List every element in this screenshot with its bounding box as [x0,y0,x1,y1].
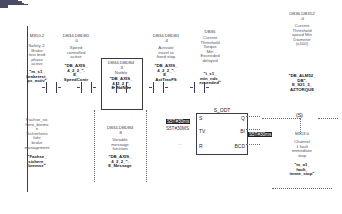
contact-4-comment: Activate travel to fixed stop [146,46,185,60]
contact-1-lead-left [42,87,45,88]
contact-3-below-comment: Variable message function [99,138,140,152]
contact-2-bar-right [91,82,92,93]
lad-network-canvas[interactable]: M810.2 Safety 2: Brake test feed phase a… [0,0,342,214]
contact-1[interactable] [45,82,58,93]
contact-3-below-address: DB34.DBDB4 .8 [99,126,140,135]
timer-r-input-wire [0,7,8,8]
timer-block-title: S_ODT [197,107,247,113]
contact-5[interactable] [193,82,206,93]
contact-5-comment: Current Threshold Torque Min Exceeded de… [188,36,231,63]
contact-5-lead-left [190,87,193,88]
contact-1-below-symbol: "Fachse_ sichere_ bremse" [17,155,56,169]
coil-rung-wire [262,118,300,119]
contact-3-selected[interactable] [115,82,128,93]
timer-pin-s[interactable]: S [199,115,202,121]
timer-tv-operand-highlighted[interactable]: S5T#30ms [166,119,190,124]
timer-pin-r[interactable]: R [199,143,203,149]
contact-1-address: M810.2 [20,34,53,39]
contact-5-lead-right [206,87,209,88]
contact-5-address: DB36 [188,30,231,35]
contact-3-below-symbol: "DB_AXIS_ 4_2_2_". E_Message [99,155,140,169]
contact-2-lead-left [77,87,80,88]
contact-5-bar-left [194,82,195,93]
reset-operand-comment: Channel 1 fault immediate stop [278,140,325,158]
contact-2[interactable] [80,82,93,93]
contact-3-bar-right [126,82,127,93]
branch-wire-right [146,110,147,182]
contact-2-address: DB34.DBDB1 .0 [57,34,94,43]
timer-q-output-wire [246,116,260,117]
power-rail-left [27,26,28,110]
timer-r-operand: ... [178,141,182,146]
timer-pin-bi[interactable]: BI [240,128,245,134]
contact-4-lead-left [149,87,152,88]
contact-3-address: DB34.DBDB4 .3 [101,61,140,70]
timer-pin-bcd[interactable]: BCD [234,143,245,149]
contact-2-symbol: "DB_AXIS_ 4_2_2_". E_ SpeedContr [56,64,95,82]
contact-1-bar-right [56,82,57,93]
timer-pin-tv[interactable]: TV [199,128,205,134]
contact-4-lead-right [165,87,168,88]
contact-1-lead-right [58,87,61,88]
contact-5-bar-right [204,82,205,93]
timer-pin-q[interactable]: Q [241,115,245,121]
contact-4[interactable] [152,82,165,93]
contact-3-comment: Notblo [101,71,140,76]
reset-operand-symbol: "m_o1_ fault_ imme_stop" [278,163,325,177]
set-operand-symbol: "DB_ALM52_ DB". E_S21_3_ AZTORQUE [278,74,325,92]
contact-1-below-comment: Fachse_sic here_brems e Sicherheits fahr… [17,118,56,150]
contact-4-bar-right [163,82,164,93]
set-operand-address: DB36.DBX52 .0 [278,12,325,21]
branch-wire-left [94,110,95,182]
coil-rung-wire-right [318,118,338,119]
reset-operand-address: M113.0 [278,132,325,137]
contact-1-comment: Safety 2: Brake test feed phase active [20,44,53,67]
contact-4-address: DB34.DBDB1 .4 [146,34,185,43]
timer-tv-operand-plain: S5T#30MS [166,126,189,131]
bcd-output-tag[interactable]: S5T#30ms [248,132,272,137]
contact-3-bar-left [116,82,117,93]
contact-3-lead-right [128,87,131,88]
reset-rung-wire [272,188,332,189]
contact-3-lead-left [112,87,115,88]
timer-bi-output-wire [246,129,260,130]
contact-2-bar-left [81,82,82,93]
contact-1-bar-left [46,82,47,93]
timer-block-s-odt[interactable]: S_ODT S TV R Q BI BCD [196,113,248,155]
contact-2-comment: Speed controlled active [57,46,94,60]
timer-bcd-output-wire [246,144,260,145]
set-operand-comment: Current Threshold speed Min Diameter (x1… [278,24,325,47]
contact-4-symbol: "DB_AXIS_ 4_2_2_". E_ ActTravFS [145,64,186,82]
contact-4-bar-left [153,82,154,93]
contact-2-lead-right [93,87,96,88]
